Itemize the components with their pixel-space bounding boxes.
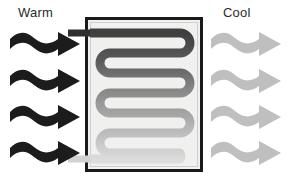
cool-flow-arrow [211, 103, 283, 133]
warm-flow-arrow [10, 103, 82, 133]
warm-flow-arrow [10, 67, 82, 97]
cool-flow-arrow [211, 139, 283, 169]
heat-exchanger-diagram: Warm Cool [0, 0, 291, 182]
cool-flow-arrow [211, 67, 283, 97]
warm-flow-arrow [10, 139, 82, 169]
warm-flow-arrow [10, 30, 82, 60]
cool-flow-arrow [211, 30, 283, 60]
